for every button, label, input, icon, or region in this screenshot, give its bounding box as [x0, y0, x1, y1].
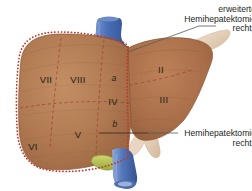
segment-label-II: II — [158, 64, 164, 75]
segment-label-III: III — [160, 94, 169, 105]
segment-label-IV: IV — [108, 96, 118, 107]
segment-label-IVa: a — [111, 73, 116, 83]
callout-line-2: Hemihepatektomie — [106, 15, 252, 25]
segment-label-VI: VI — [28, 141, 38, 152]
liver-segment-figure: VII VIII a IV b VI V II III erweiterte H… — [0, 0, 252, 191]
segment-label-VII: VII — [40, 74, 53, 85]
callout-line-3: rechts — [106, 24, 252, 34]
liver-left-lobe — [128, 38, 213, 141]
callout-line-2: rechts — [106, 139, 252, 149]
segment-label-IVb: b — [112, 119, 117, 129]
callout-extended-right-hemihepatectomy: erweiterte Hemihepatektomie rechts — [106, 5, 252, 34]
segment-label-V: V — [75, 129, 82, 140]
callout-line-1: Hemihepatektomie — [106, 129, 252, 139]
callout-right-hemihepatectomy: Hemihepatektomie rechts — [106, 129, 252, 148]
segment-label-VIII: VIII — [70, 74, 85, 85]
